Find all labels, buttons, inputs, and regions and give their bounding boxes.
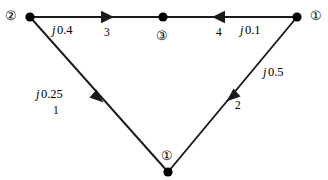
impedance-label-branch-3: j0.4 [52,24,73,37]
node-dot-1-bottom [163,167,172,176]
branch-number-1: 1 [53,105,59,117]
impedance-value-branch-1: 0.25 [39,87,62,101]
impedance-value-branch-4: 0.1 [243,23,260,37]
node-dot-2 [25,12,34,21]
node-dot-1-right [292,12,301,21]
impedance-value-branch-2: 0.5 [266,65,283,79]
node-dot-3 [158,12,167,21]
arrowhead-branch-4 [212,11,225,23]
node-tag-2: ② [5,9,17,22]
branch-number-4: 4 [216,27,222,39]
node-tag-1-right: ① [310,9,322,22]
graph-arrowheads [90,11,241,103]
arrowhead-branch-3 [101,11,114,23]
impedance-label-branch-1: j0.25 [36,88,63,101]
impedance-label-branch-4: j0.1 [240,24,261,37]
branch-number-2: 2 [235,100,241,112]
network-graph-figure: ② ③ ① ① j0.4 j0.1 j0.25 j0.5 3 4 1 2 [0,0,328,180]
node-tag-1-bottom: ① [161,149,173,162]
node-tag-3: ③ [156,29,168,42]
branch-number-3: 3 [104,27,110,39]
impedance-label-branch-2: j0.5 [263,66,284,79]
impedance-value-branch-3: 0.4 [55,23,72,37]
